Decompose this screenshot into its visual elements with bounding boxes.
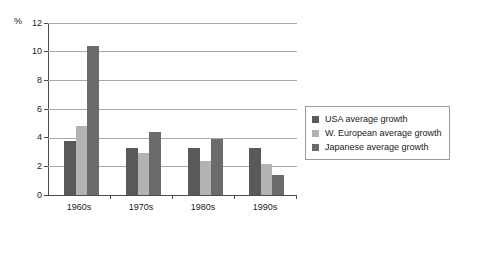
legend-item-japanese: Japanese average growth (312, 140, 442, 154)
bar-usa-1970s (126, 148, 138, 195)
x-tick-mark-4 (296, 195, 297, 199)
y-tick-label-6: 6 (20, 104, 42, 114)
gridline-8 (48, 80, 297, 81)
x-axis-label-1960s: 1960s (49, 202, 109, 212)
legend-swatch-usa (312, 116, 319, 123)
gridline-12 (48, 23, 297, 24)
legend-swatch-japanese (312, 144, 319, 151)
legend-item-usa: USA average growth (312, 112, 442, 126)
bar-usa-1990s (249, 148, 261, 195)
x-tick-mark-2 (172, 195, 173, 199)
bar-weuropean-1990s (261, 164, 272, 196)
gridline-10 (48, 51, 297, 52)
plot-area (48, 23, 297, 195)
bar-japanese-1970s (149, 132, 161, 195)
legend-label-japanese: Japanese average growth (325, 142, 429, 152)
bar-japanese-1980s (211, 139, 223, 195)
x-axis-label-1970s: 1970s (111, 202, 171, 212)
x-axis-label-1980s: 1980s (173, 202, 233, 212)
bar-weuropean-1970s (138, 153, 149, 195)
y-tick-label-10: 10 (20, 46, 42, 56)
y-tick-label-4: 4 (20, 132, 42, 142)
legend-swatch-weuropean (312, 130, 319, 137)
gridline-6 (48, 109, 297, 110)
bar-chart-figure: % 12 10 8 6 4 2 0 (0, 0, 484, 259)
legend-item-weuropean: W. European average growth (312, 126, 442, 140)
x-tick-mark-3 (234, 195, 235, 199)
legend-label-usa: USA average growth (325, 114, 408, 124)
chart-legend: USA average growth W. European average g… (305, 106, 450, 160)
y-tick-label-12: 12 (20, 18, 42, 28)
bar-weuropean-1960s (76, 126, 87, 195)
bar-usa-1980s (188, 148, 200, 195)
chart-screenshot: % 12 10 8 6 4 2 0 (0, 0, 484, 259)
x-axis-label-1990s: 1990s (235, 202, 295, 212)
legend-label-weuropean: W. European average growth (325, 128, 442, 138)
bar-weuropean-1980s (200, 161, 211, 195)
x-tick-mark-1 (110, 195, 111, 199)
y-tick-label-2: 2 (20, 161, 42, 171)
bar-japanese-1960s (87, 46, 99, 195)
bar-usa-1960s (64, 141, 76, 196)
y-tick-label-8: 8 (20, 75, 42, 85)
bar-japanese-1990s (272, 175, 284, 195)
y-axis-tick-labels: 12 10 8 6 4 2 0 (16, 0, 42, 259)
y-tick-label-0: 0 (20, 190, 42, 200)
